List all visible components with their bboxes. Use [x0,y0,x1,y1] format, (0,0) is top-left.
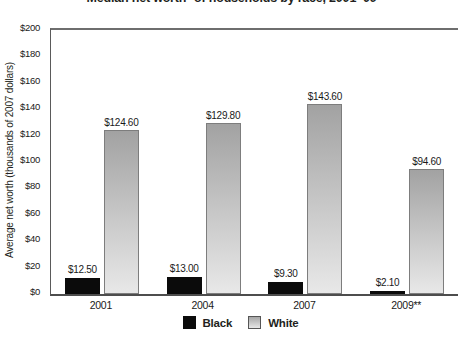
white-bar: $129.80 [206,123,241,294]
y-axis-ticks: $0$20$40$60$80$100$120$140$160$180$200 [0,28,45,292]
bar-group-2009: $2.10$94.60 [370,169,444,294]
y-tick-label: $100 [20,154,40,166]
y-tick-label: $0 [30,286,40,298]
plot-area: $12.50$124.60$13.00$129.80$9.30$143.60$2… [50,28,458,296]
y-tick-label: $160 [20,75,40,87]
black-bar: $13.00 [167,277,202,294]
black-bar: $2.10 [370,291,405,294]
x-tick-label: 2001 [90,299,112,311]
y-tick-label: $40 [25,233,40,245]
legend-swatch-white [248,316,261,329]
bar-value-label: $129.80 [206,110,240,121]
legend-label-black: Black [203,317,233,329]
legend-label-white: White [268,317,298,329]
x-tick-label: 2009** [391,299,421,311]
legend-swatch-black [183,316,196,329]
bar-group-2004: $13.00$129.80 [167,123,241,294]
y-tick-label: $200 [20,22,40,34]
bar-value-label: $143.60 [308,91,342,102]
black-bar: $12.50 [65,278,100,295]
y-tick-label: $80 [25,180,40,192]
y-tick-label: $20 [25,260,40,272]
bar-value-label: $9.30 [274,268,298,279]
bars-layer: $12.50$124.60$13.00$129.80$9.30$143.60$2… [51,30,458,294]
y-tick-label: $140 [20,101,40,113]
y-tick-label: $60 [25,207,40,219]
bar-value-label: $124.60 [104,117,138,128]
chart-canvas: Median net worth* of households by race,… [0,0,463,341]
black-bar: $9.30 [268,282,303,294]
x-axis-labels: 2001200420072009** [50,299,457,313]
bar-value-label: $94.60 [412,156,441,167]
legend-item-white: White [248,316,298,329]
bar-value-label: $13.00 [170,263,199,274]
x-tick-label: 2004 [192,299,214,311]
x-tick-label: 2007 [293,299,315,311]
bar-value-label: $12.50 [68,264,97,275]
white-bar: $143.60 [307,104,342,294]
legend: BlackWhite [0,316,463,329]
bar-group-2001: $12.50$124.60 [65,130,139,295]
chart-title: Median net worth* of households by race,… [0,0,463,5]
white-bar: $124.60 [104,130,139,295]
bar-value-label: $2.10 [376,277,400,288]
bar-group-2007: $9.30$143.60 [268,104,342,294]
white-bar: $94.60 [409,169,444,294]
y-tick-label: $180 [20,48,40,60]
legend-item-black: Black [183,316,233,329]
y-tick-label: $120 [20,128,40,140]
